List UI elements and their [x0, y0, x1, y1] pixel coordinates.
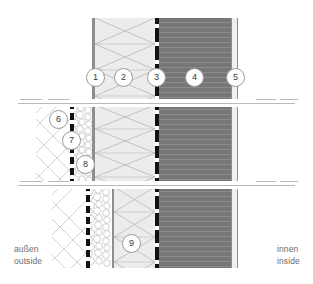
callout-2-label: 2	[121, 73, 126, 82]
callout-8-label: 8	[83, 160, 88, 169]
callout-2[interactable]: 2	[114, 68, 133, 87]
callout-9[interactable]: 9	[122, 234, 141, 253]
callout-1[interactable]: 1	[86, 68, 105, 87]
wall-section-diagram: 1 2 3 4 5 6 7 8 9 außen outside innen in…	[0, 0, 313, 284]
callout-8[interactable]: 8	[76, 155, 95, 174]
break-line-upper-tick-d	[280, 99, 298, 100]
layer-inner-finish-middle	[231, 105, 238, 184]
callout-6[interactable]: 6	[49, 110, 68, 129]
callout-9-label: 9	[129, 239, 134, 248]
section-band-middle	[0, 105, 313, 184]
callout-6-label: 6	[56, 115, 61, 124]
caption-outside-de: außen	[14, 243, 42, 255]
callout-7[interactable]: 7	[62, 131, 81, 150]
layer-inner-finish-top	[231, 18, 238, 104]
callout-4-label: 4	[192, 73, 197, 82]
callout-3-label: 3	[154, 73, 159, 82]
callout-5[interactable]: 5	[226, 68, 245, 87]
break-line-lower-tick-c	[256, 181, 276, 182]
layer-concrete-core-middle	[159, 105, 231, 184]
break-line-upper	[18, 103, 295, 104]
break-line-upper-tick-a	[20, 99, 42, 100]
layer-insulation-middle	[95, 105, 155, 184]
callout-7-label: 7	[69, 136, 74, 145]
layer-sealing-strip-bottom	[86, 187, 90, 268]
layer-insulation-top	[95, 18, 155, 104]
layer-masonry-hatch-bottom	[52, 187, 86, 268]
caption-inside: innen inside	[277, 243, 300, 268]
layer-concrete-core-top	[159, 18, 231, 104]
section-band-top	[0, 18, 313, 104]
caption-inside-en: inside	[277, 255, 300, 267]
insulation-zigzag-icon	[95, 105, 155, 184]
layer-concrete-core-bottom	[159, 187, 231, 268]
break-line-lower-tick-a	[20, 181, 42, 182]
break-line-lower-tick-d	[280, 181, 298, 182]
caption-inside-de: innen	[277, 243, 300, 255]
caption-outside: außen outside	[14, 243, 42, 268]
layer-insulation-bottom	[114, 187, 155, 268]
break-line-lower-tick-b	[48, 181, 70, 182]
section-band-bottom	[0, 187, 313, 268]
break-line-upper-tick-b	[48, 99, 70, 100]
callout-1-label: 1	[93, 73, 98, 82]
callout-5-label: 5	[233, 73, 238, 82]
caption-outside-en: outside	[14, 255, 42, 267]
break-line-upper-tick-c	[256, 99, 276, 100]
callout-4[interactable]: 4	[185, 68, 204, 87]
masonry-hatch-icon	[52, 187, 86, 268]
break-line-lower	[18, 185, 295, 186]
callout-3[interactable]: 3	[147, 68, 166, 87]
insulation-zigzag-icon	[95, 18, 155, 104]
layer-inner-finish-bottom	[231, 187, 238, 268]
insulation-zigzag-icon	[114, 187, 155, 268]
